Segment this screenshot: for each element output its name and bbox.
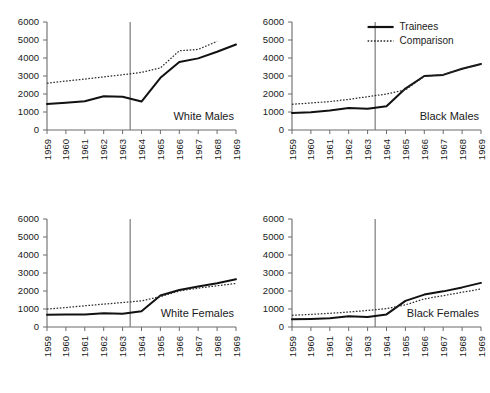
x-tick-label: 1966 bbox=[174, 336, 185, 357]
y-tick-label: 2000 bbox=[18, 88, 39, 99]
y-tick-label: 2000 bbox=[263, 88, 284, 99]
x-tick-label: 1965 bbox=[155, 336, 166, 357]
x-tick-label: 1967 bbox=[438, 336, 449, 357]
y-tick-label: 3000 bbox=[18, 70, 39, 81]
y-tick-label: 0 bbox=[279, 124, 284, 135]
y-tick-label: 0 bbox=[279, 321, 284, 332]
series-line-comparison bbox=[47, 41, 217, 83]
y-tick-label: 3000 bbox=[263, 70, 284, 81]
chart-panel-white-females: 0100020003000400050006000195919601961196… bbox=[0, 197, 245, 393]
y-tick-label: 6000 bbox=[263, 16, 284, 27]
y-tick-label: 4000 bbox=[263, 52, 284, 63]
panel-title: Black Females bbox=[407, 307, 480, 319]
y-tick-label: 2000 bbox=[263, 285, 284, 296]
x-tick-label: 1963 bbox=[362, 336, 373, 357]
x-tick-label: 1968 bbox=[457, 336, 468, 357]
x-tick-label: 1964 bbox=[381, 336, 392, 357]
x-tick-label: 1961 bbox=[79, 139, 90, 160]
y-tick-label: 6000 bbox=[18, 16, 39, 27]
y-tick-label: 3000 bbox=[263, 267, 284, 278]
x-tick-label: 1963 bbox=[362, 139, 373, 160]
x-tick-label: 1961 bbox=[324, 336, 335, 357]
x-tick-label: 1969 bbox=[231, 336, 242, 357]
y-tick-label: 0 bbox=[34, 321, 39, 332]
x-tick-label: 1960 bbox=[305, 336, 316, 357]
x-tick-label: 1963 bbox=[117, 139, 128, 160]
legend-label-trainees: Trainees bbox=[400, 21, 439, 32]
chart-panel-black-males: 0100020003000400050006000195919601961196… bbox=[245, 0, 490, 196]
x-tick-label: 1966 bbox=[174, 139, 185, 160]
x-tick-label: 1960 bbox=[60, 139, 71, 160]
y-tick-label: 5000 bbox=[263, 34, 284, 45]
y-tick-label: 3000 bbox=[18, 267, 39, 278]
y-tick-label: 0 bbox=[34, 124, 39, 135]
chart-panel-black-females: 0100020003000400050006000195919601961196… bbox=[245, 197, 490, 393]
series-line-comparison bbox=[292, 64, 481, 104]
panel-plot-2: 0100020003000400050006000195919601961196… bbox=[0, 197, 245, 393]
x-tick-label: 1964 bbox=[381, 139, 392, 160]
x-tick-label: 1959 bbox=[42, 139, 53, 160]
y-tick-label: 6000 bbox=[18, 213, 39, 224]
x-tick-label: 1965 bbox=[400, 139, 411, 160]
y-tick-label: 4000 bbox=[18, 249, 39, 260]
x-tick-label: 1969 bbox=[476, 139, 487, 160]
panel-title: White Males bbox=[173, 110, 234, 122]
x-tick-label: 1959 bbox=[287, 336, 298, 357]
x-tick-label: 1965 bbox=[155, 139, 166, 160]
x-tick-label: 1961 bbox=[79, 336, 90, 357]
y-tick-label: 1000 bbox=[18, 303, 39, 314]
panel-plot-3: 0100020003000400050006000195919601961196… bbox=[245, 197, 490, 393]
x-tick-label: 1964 bbox=[136, 139, 147, 160]
panel-plot-1: 0100020003000400050006000195919601961196… bbox=[245, 0, 490, 196]
x-tick-label: 1959 bbox=[42, 336, 53, 357]
y-tick-label: 2000 bbox=[18, 285, 39, 296]
panel-title: Black Males bbox=[420, 110, 480, 122]
x-tick-label: 1961 bbox=[324, 139, 335, 160]
x-tick-label: 1963 bbox=[117, 336, 128, 357]
series-line-trainees bbox=[47, 45, 236, 104]
x-tick-label: 1962 bbox=[343, 336, 354, 357]
x-tick-label: 1964 bbox=[136, 336, 147, 357]
y-tick-label: 4000 bbox=[18, 52, 39, 63]
x-tick-label: 1967 bbox=[193, 336, 204, 357]
y-tick-label: 1000 bbox=[263, 106, 284, 117]
x-tick-label: 1966 bbox=[419, 336, 430, 357]
y-tick-label: 1000 bbox=[18, 106, 39, 117]
series-line-comparison bbox=[47, 283, 236, 309]
x-tick-label: 1966 bbox=[419, 139, 430, 160]
x-tick-label: 1965 bbox=[400, 336, 411, 357]
x-tick-label: 1962 bbox=[98, 336, 109, 357]
chart-panel-white-males: 0100020003000400050006000195919601961196… bbox=[0, 0, 245, 196]
panel-plot-0: 0100020003000400050006000195919601961196… bbox=[0, 0, 245, 196]
y-tick-label: 5000 bbox=[18, 34, 39, 45]
x-tick-label: 1960 bbox=[60, 336, 71, 357]
y-tick-label: 5000 bbox=[263, 231, 284, 242]
x-tick-label: 1969 bbox=[476, 336, 487, 357]
y-tick-label: 6000 bbox=[263, 213, 284, 224]
y-tick-label: 5000 bbox=[18, 231, 39, 242]
multi-panel-line-chart-figure: 0100020003000400050006000195919601961196… bbox=[0, 0, 490, 393]
y-tick-label: 4000 bbox=[263, 249, 284, 260]
x-tick-label: 1968 bbox=[212, 336, 223, 357]
x-tick-label: 1959 bbox=[287, 139, 298, 160]
x-tick-label: 1968 bbox=[212, 139, 223, 160]
x-tick-label: 1962 bbox=[343, 139, 354, 160]
y-tick-label: 1000 bbox=[263, 303, 284, 314]
panel-title: White Females bbox=[161, 307, 235, 319]
x-tick-label: 1960 bbox=[305, 139, 316, 160]
x-tick-label: 1967 bbox=[193, 139, 204, 160]
x-tick-label: 1967 bbox=[438, 139, 449, 160]
x-tick-label: 1968 bbox=[457, 139, 468, 160]
x-tick-label: 1969 bbox=[231, 139, 242, 160]
x-tick-label: 1962 bbox=[98, 139, 109, 160]
legend-label-comparison: Comparison bbox=[400, 35, 454, 46]
